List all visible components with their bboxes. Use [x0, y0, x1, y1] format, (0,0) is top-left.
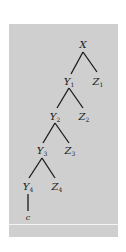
- edge-X-Z1: [83, 52, 97, 72]
- node-label: Y: [23, 181, 30, 192]
- node-subscript: 2: [56, 116, 60, 123]
- edge-Y1-Z2: [69, 88, 83, 108]
- node-c: c: [26, 214, 30, 222]
- node-subscript: 1: [100, 81, 104, 88]
- node-label: Z: [79, 111, 86, 122]
- node-Z2: Z2: [79, 112, 90, 123]
- node-subscript: 2: [86, 116, 90, 123]
- node-subscript: 3: [72, 150, 76, 157]
- node-X: X: [79, 40, 86, 50]
- edge-Y1-Y2: [57, 88, 69, 108]
- node-label: Z: [52, 181, 59, 192]
- edge-Y2-Z3: [55, 123, 69, 143]
- node-label: c: [26, 213, 30, 222]
- node-Y4: Y4: [23, 182, 33, 193]
- node-Y2: Y2: [50, 112, 60, 123]
- node-label: Z: [65, 145, 72, 156]
- node-subscript: 3: [43, 150, 47, 157]
- node-label: Y: [64, 76, 71, 87]
- edge-X-Y1: [71, 52, 83, 74]
- node-Z3: Z3: [65, 146, 76, 157]
- node-subscript: 1: [70, 81, 74, 88]
- tree-edges: [0, 0, 126, 252]
- node-label: Y: [37, 145, 44, 156]
- node-Y3: Y3: [37, 146, 47, 157]
- node-label: X: [79, 39, 86, 50]
- edge-Y3-Y4: [29, 158, 42, 178]
- edge-Y2-Y3: [43, 123, 55, 143]
- node-Z4: Z4: [52, 182, 63, 193]
- node-subscript: 4: [29, 186, 33, 193]
- node-label: Z: [93, 76, 100, 87]
- node-label: Y: [50, 111, 57, 122]
- node-Z1: Z1: [93, 77, 104, 88]
- edge-Y3-Z4: [42, 158, 55, 178]
- node-subscript: 4: [59, 186, 63, 193]
- node-Y1: Y1: [64, 77, 74, 88]
